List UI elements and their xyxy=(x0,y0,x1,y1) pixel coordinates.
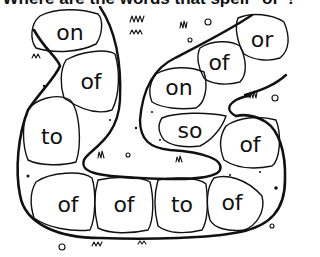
stone-word-to: to xyxy=(171,194,193,216)
stone-word-of: of xyxy=(57,194,78,216)
stone-word-of: of xyxy=(80,71,101,93)
stone-word-of: of xyxy=(208,52,229,74)
stone-word-or: or xyxy=(251,29,274,51)
stone-word-of: of xyxy=(239,134,260,156)
stone-word-on: on xyxy=(165,77,192,99)
stone-word-so: so xyxy=(178,120,203,142)
stone-word-on: on xyxy=(56,22,83,44)
stone-word-to: to xyxy=(41,126,63,148)
stone-word-of: of xyxy=(221,192,242,214)
stone-word-of: of xyxy=(113,194,134,216)
